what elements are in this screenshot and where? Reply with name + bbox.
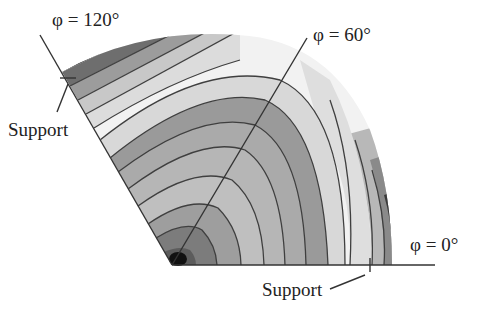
label-support-left: Support: [8, 120, 68, 139]
sector-contour-plot: [0, 0, 486, 309]
label-phi-0: φ = 0°: [410, 235, 458, 254]
label-phi-60: φ = 60°: [313, 25, 371, 44]
contour-fills: [0, 0, 486, 309]
label-phi-120: φ = 120°: [52, 10, 119, 29]
label-support-bottom: Support: [262, 280, 322, 299]
